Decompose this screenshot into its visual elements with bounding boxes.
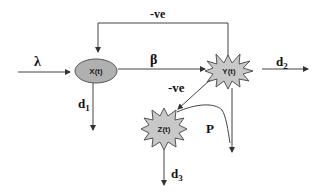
y-node-label: Y(t) xyxy=(222,67,236,76)
feedback-ve-label: -ve xyxy=(150,7,166,21)
beta-label: β xyxy=(150,52,157,67)
y-to-z-ve-label: -ve xyxy=(168,80,185,95)
flow-diagram: λ -ve X(t) β d1 Y(t) d2 -ve P Z(t) d3 xyxy=(0,0,323,195)
lambda-label: λ xyxy=(34,54,41,69)
z-node-label: Z(t) xyxy=(158,125,171,134)
p-label: P xyxy=(206,121,214,136)
d1-label: d1 xyxy=(78,96,90,113)
feedback-arrow xyxy=(98,23,228,58)
d2-label: d2 xyxy=(276,54,288,71)
p-curve xyxy=(177,105,230,143)
diagram-canvas: λ -ve X(t) β d1 Y(t) d2 -ve P Z(t) d3 xyxy=(0,0,323,195)
x-node-label: X(t) xyxy=(89,67,103,76)
d3-label: d3 xyxy=(171,166,183,183)
